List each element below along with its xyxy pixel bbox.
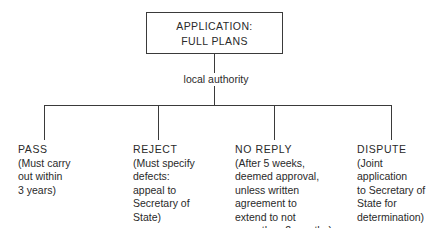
branch-connector-no-reply [274, 105, 275, 140]
branch-connector-dispute [391, 105, 392, 140]
outcome-title: REJECT [133, 143, 195, 157]
branch-bar [44, 105, 392, 106]
connector-label-local-authority: local authority [178, 73, 254, 86]
branch-connector-pass [44, 105, 45, 140]
outcome-reject: REJECT (Must specify defects: appeal to … [133, 143, 195, 224]
outcome-title: NO REPLY [235, 143, 332, 157]
root-node-line-1: APPLICATION: [147, 19, 282, 34]
outcome-description: (After 5 weeks, deemed approval, unless … [235, 157, 332, 229]
outcome-dispute: DISPUTE (Joint application to Secretary … [357, 143, 425, 224]
outcome-description: (Joint application to Secretary of State… [357, 157, 425, 225]
outcome-description: (Must carry out within 3 years) [18, 157, 71, 198]
outcome-pass: PASS (Must carry out within 3 years) [18, 143, 71, 197]
outcome-description: (Must specify defects: appeal to Secreta… [133, 157, 195, 225]
outcome-title: DISPUTE [357, 143, 425, 157]
root-node-application-full-plans: APPLICATION: FULL PLANS [146, 12, 283, 54]
outcome-no-reply: NO REPLY (After 5 weeks, deemed approval… [235, 143, 332, 228]
root-node-line-2: FULL PLANS [147, 34, 282, 49]
outcome-title: PASS [18, 143, 71, 157]
branch-connector-reject [158, 105, 159, 140]
